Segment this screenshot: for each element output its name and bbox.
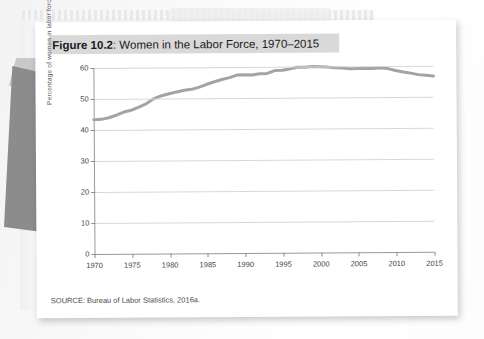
x-tick-label: 2010 bbox=[388, 259, 405, 268]
x-tick-label: 2005 bbox=[351, 259, 368, 268]
figure-title-text: : Women in the Labor Force, 1970–2015 bbox=[113, 38, 319, 51]
x-tick-label: 1970 bbox=[86, 261, 103, 270]
y-tick-label: 0 bbox=[85, 249, 89, 258]
figure-title: Figure 10.2: Women in the Labor Force, 1… bbox=[52, 36, 319, 54]
x-tick-label: 1990 bbox=[237, 260, 254, 269]
x-tick-mark bbox=[359, 252, 360, 256]
x-tick-mark bbox=[435, 252, 436, 256]
y-tick-mark bbox=[91, 161, 95, 162]
x-tick-mark bbox=[132, 254, 133, 258]
x-tick-label: 2000 bbox=[313, 259, 330, 268]
y-tick-label: 10 bbox=[81, 218, 89, 227]
figure-card: Figure 10.2: Women in the Labor Force, 1… bbox=[35, 20, 458, 319]
x-tick-mark bbox=[246, 253, 247, 257]
y-axis-label: Percentage of women in labor force bbox=[45, 0, 54, 110]
x-tick-mark bbox=[95, 254, 96, 258]
x-tick-mark bbox=[208, 253, 209, 257]
x-tick-label: 1995 bbox=[275, 260, 292, 269]
x-tick-label: 1985 bbox=[200, 260, 217, 269]
x-tick-mark bbox=[170, 253, 171, 257]
x-tick-label: 1980 bbox=[162, 260, 179, 269]
y-tick-mark bbox=[91, 130, 95, 131]
y-tick-label: 50 bbox=[80, 94, 88, 103]
series-polyline bbox=[93, 66, 433, 120]
x-tick-mark bbox=[397, 252, 398, 256]
plot-canvas: 0102030405060197019751980198519901995200… bbox=[93, 66, 434, 254]
chart-area: Percentage of women in labor force 01020… bbox=[47, 58, 444, 288]
source-note: SOURCE: Bureau of Labor Statistics, 2016… bbox=[51, 295, 200, 305]
x-tick-label: 2015 bbox=[426, 259, 443, 268]
y-tick-label: 30 bbox=[81, 156, 89, 165]
y-tick-mark bbox=[90, 68, 94, 69]
y-tick-label: 20 bbox=[81, 187, 89, 196]
figure-number: Figure 10.2 bbox=[52, 39, 113, 51]
x-tick-label: 1975 bbox=[124, 261, 141, 270]
x-tick-mark bbox=[283, 253, 284, 257]
y-tick-label: 60 bbox=[80, 63, 88, 72]
y-tick-label: 40 bbox=[80, 125, 88, 134]
x-tick-mark bbox=[321, 253, 322, 257]
y-tick-mark bbox=[91, 223, 95, 224]
y-tick-mark bbox=[91, 99, 95, 100]
y-tick-mark bbox=[91, 192, 95, 193]
